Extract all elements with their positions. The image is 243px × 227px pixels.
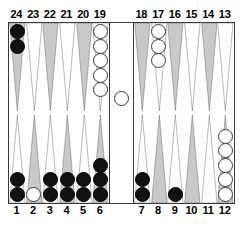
checker-white-on-bar[interactable] bbox=[114, 91, 129, 106]
backgammon-board: 242322212019181716151413 123456789101112 bbox=[0, 0, 243, 227]
top-point-labels: 242322212019181716151413 bbox=[0, 8, 243, 22]
point-label-top-24: 24 bbox=[7, 8, 25, 21]
checker-white-point-12[interactable] bbox=[218, 129, 233, 144]
point-7[interactable] bbox=[134, 113, 151, 203]
point-label-top-19: 19 bbox=[91, 8, 109, 21]
point-label-bottom-10: 10 bbox=[182, 204, 200, 217]
point-label-bottom-11: 11 bbox=[199, 204, 217, 217]
point-15[interactable] bbox=[184, 23, 201, 113]
point-label-bottom-12: 12 bbox=[216, 204, 234, 217]
point-label-top-16: 16 bbox=[166, 8, 184, 21]
point-11[interactable] bbox=[201, 113, 218, 203]
checker-white-point-19[interactable] bbox=[93, 39, 108, 54]
point-label-bottom-8: 8 bbox=[149, 204, 167, 217]
point-label-bottom-1: 1 bbox=[7, 204, 25, 217]
checker-black-point-4[interactable] bbox=[60, 187, 75, 202]
bottom-point-labels: 123456789101112 bbox=[0, 204, 243, 218]
point-10[interactable] bbox=[184, 113, 201, 203]
point-label-top-13: 13 bbox=[216, 8, 234, 21]
point-16[interactable] bbox=[167, 23, 184, 113]
point-14[interactable] bbox=[201, 23, 218, 113]
bar[interactable] bbox=[109, 23, 134, 203]
checker-white-point-19[interactable] bbox=[93, 68, 108, 83]
point-9[interactable] bbox=[167, 113, 184, 203]
checker-black-point-7[interactable] bbox=[135, 187, 150, 202]
point-13[interactable] bbox=[217, 23, 234, 113]
point-label-top-14: 14 bbox=[199, 8, 217, 21]
point-20[interactable] bbox=[76, 23, 93, 113]
point-6[interactable] bbox=[92, 113, 109, 203]
quadrant-top-left bbox=[9, 23, 109, 113]
point-19[interactable] bbox=[92, 23, 109, 113]
point-label-top-20: 20 bbox=[74, 8, 92, 21]
point-4[interactable] bbox=[59, 113, 76, 203]
point-1[interactable] bbox=[9, 113, 26, 203]
point-label-bottom-7: 7 bbox=[132, 204, 150, 217]
checker-black-point-6[interactable] bbox=[93, 158, 108, 173]
point-2[interactable] bbox=[26, 113, 43, 203]
point-18[interactable] bbox=[134, 23, 151, 113]
checker-black-point-24[interactable] bbox=[10, 39, 25, 54]
point-5[interactable] bbox=[76, 113, 93, 203]
point-23[interactable] bbox=[26, 23, 43, 113]
quadrant-bottom-right bbox=[134, 113, 234, 203]
point-label-top-23: 23 bbox=[24, 8, 42, 21]
quadrant-bottom-left bbox=[9, 113, 109, 203]
point-label-bottom-3: 3 bbox=[41, 204, 59, 217]
point-label-bottom-2: 2 bbox=[24, 204, 42, 217]
point-label-top-15: 15 bbox=[182, 8, 200, 21]
board-frame bbox=[8, 22, 235, 204]
point-label-top-17: 17 bbox=[149, 8, 167, 21]
point-22[interactable] bbox=[42, 23, 59, 113]
bar-checker-layer bbox=[110, 23, 133, 203]
checker-white-point-12[interactable] bbox=[218, 158, 233, 173]
checker-black-point-24[interactable] bbox=[10, 24, 25, 39]
point-12[interactable] bbox=[217, 113, 234, 203]
point-label-bottom-4: 4 bbox=[57, 204, 75, 217]
point-label-top-21: 21 bbox=[57, 8, 75, 21]
point-label-top-22: 22 bbox=[41, 8, 59, 21]
checker-black-point-1[interactable] bbox=[10, 187, 25, 202]
quadrant-top-right bbox=[134, 23, 234, 113]
point-21[interactable] bbox=[59, 23, 76, 113]
point-17[interactable] bbox=[151, 23, 168, 113]
point-label-bottom-5: 5 bbox=[74, 204, 92, 217]
point-label-bottom-9: 9 bbox=[166, 204, 184, 217]
point-24[interactable] bbox=[9, 23, 26, 113]
point-3[interactable] bbox=[42, 113, 59, 203]
point-label-bottom-6: 6 bbox=[91, 204, 109, 217]
point-label-top-18: 18 bbox=[132, 8, 150, 21]
point-8[interactable] bbox=[151, 113, 168, 203]
